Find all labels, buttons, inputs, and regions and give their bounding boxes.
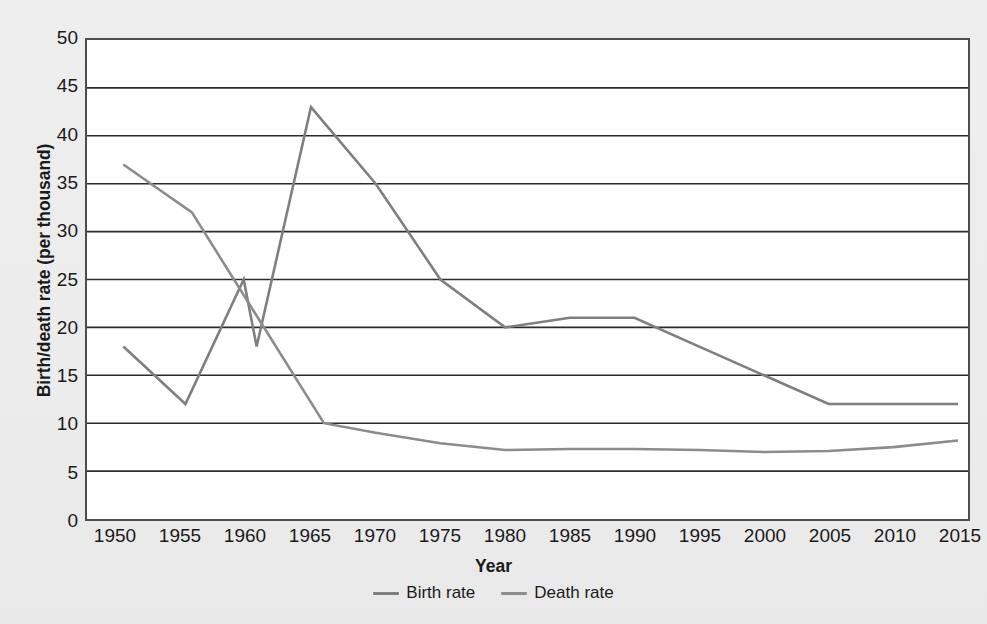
x-axis-tick-label: 2015 [920,526,987,545]
gridlines [87,88,968,471]
y-axis-tick-label: 0 [18,511,78,530]
x-axis-tick-labels: 1950195519601965197019751980198519901995… [85,526,970,554]
legend-item-birth-rate[interactable]: Birth rate [373,583,475,603]
legend-line-icon [501,592,527,595]
y-axis-tick-label: 45 [18,76,78,95]
series-line-birth-rate [123,107,958,404]
y-axis-tick-label: 5 [18,463,78,482]
legend-line-icon [373,592,399,595]
y-axis-tick-label: 25 [18,270,78,289]
legend-label: Death rate [534,583,613,603]
legend-label: Birth rate [406,583,475,603]
y-axis-tick-labels: 05101520253035404550 [12,38,78,521]
plot-area [85,38,970,521]
legend-item-death-rate[interactable]: Death rate [501,583,613,603]
y-axis-tick-label: 35 [18,173,78,192]
y-axis-tick-label: 30 [18,221,78,240]
y-axis-tick-label: 40 [18,125,78,144]
chart-svg [87,40,968,519]
y-axis-tick-label: 15 [18,366,78,385]
chart-legend: Birth rateDeath rate [0,583,987,603]
x-axis-title: Year [0,556,987,577]
y-axis-tick-label: 50 [18,28,78,47]
y-axis-tick-label: 10 [18,414,78,433]
chart-container: Birth/death rate (per thousand) 05101520… [0,0,987,624]
y-axis-tick-label: 20 [18,318,78,337]
